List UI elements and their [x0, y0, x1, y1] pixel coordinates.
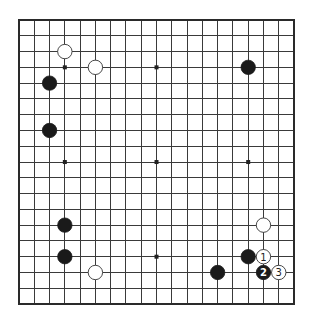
white-stone[interactable]	[88, 60, 102, 74]
black-stone[interactable]	[42, 123, 56, 137]
star-point	[63, 65, 67, 69]
star-point	[155, 160, 159, 164]
black-stone[interactable]	[241, 60, 255, 74]
white-stone-icon	[58, 44, 72, 58]
white-stone[interactable]	[88, 265, 102, 279]
go-board-canvas[interactable]: 123	[0, 0, 314, 322]
white-stone[interactable]	[58, 44, 72, 58]
black-stone[interactable]	[241, 250, 255, 264]
white-stone-move-1[interactable]: 1	[256, 250, 270, 264]
black-stone-move-2[interactable]: 2	[256, 265, 270, 279]
black-stone-icon	[241, 250, 255, 264]
black-stone-icon	[58, 250, 72, 264]
white-stone-icon	[88, 60, 102, 74]
black-stone-icon	[241, 60, 255, 74]
black-stone[interactable]	[210, 265, 224, 279]
black-stone[interactable]	[58, 250, 72, 264]
move-number-label: 1	[260, 252, 266, 263]
move-number-label: 2	[260, 267, 267, 278]
move-number-label: 3	[276, 267, 282, 278]
star-point	[63, 160, 67, 164]
star-point	[246, 160, 250, 164]
black-stone[interactable]	[58, 218, 72, 232]
go-board[interactable]: 123	[0, 0, 314, 322]
white-stone-icon	[256, 218, 270, 232]
black-stone-icon	[42, 76, 56, 90]
black-stone-icon	[42, 123, 56, 137]
white-stone-icon	[88, 265, 102, 279]
black-stone-icon	[210, 265, 224, 279]
white-stone-move-3[interactable]: 3	[272, 265, 286, 279]
star-point	[155, 255, 159, 259]
black-stone[interactable]	[42, 76, 56, 90]
white-stone[interactable]	[256, 218, 270, 232]
black-stone-icon	[58, 218, 72, 232]
star-point	[155, 65, 159, 69]
